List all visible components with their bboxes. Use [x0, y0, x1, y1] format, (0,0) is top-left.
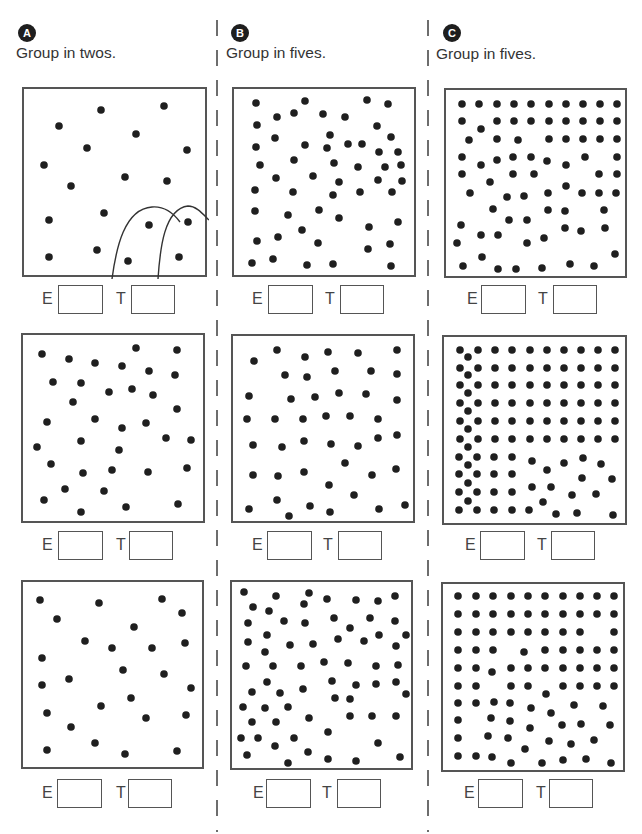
- dot: [248, 718, 256, 726]
- dot: [525, 506, 533, 514]
- dot: [398, 177, 406, 185]
- dot: [314, 239, 322, 247]
- total-answer-box[interactable]: [338, 531, 382, 560]
- dot: [538, 759, 546, 767]
- dot: [509, 153, 517, 161]
- estimate-answer-box[interactable]: [58, 531, 103, 560]
- estimate-answer-box[interactable]: [266, 779, 311, 808]
- total-answer-box[interactable]: [553, 285, 597, 314]
- total-answer-box[interactable]: [129, 531, 173, 560]
- section-b-instruction: Group in fives.: [226, 44, 326, 62]
- estimate-answer-box[interactable]: [481, 285, 526, 314]
- dot: [464, 389, 472, 397]
- dot: [261, 648, 269, 656]
- dot: [593, 682, 601, 690]
- dot: [330, 159, 338, 167]
- dot: [43, 418, 51, 426]
- dot: [454, 664, 462, 672]
- dot: [132, 344, 140, 352]
- dot: [375, 505, 383, 513]
- dot: [249, 471, 257, 479]
- estimate-answer-box[interactable]: [480, 531, 525, 560]
- estimate-answer-box[interactable]: [57, 779, 102, 808]
- dot: [375, 631, 383, 639]
- dot: [573, 509, 581, 517]
- estimate-answer-box[interactable]: [478, 779, 523, 808]
- dot: [454, 610, 462, 618]
- dot: [454, 592, 462, 600]
- dot: [520, 192, 528, 200]
- dot: [290, 734, 298, 742]
- dot: [579, 454, 587, 462]
- dot: [265, 607, 273, 615]
- estimate-answer-box[interactable]: [268, 285, 313, 314]
- dot: [344, 659, 352, 667]
- dot: [560, 364, 568, 372]
- dot: [453, 239, 461, 247]
- dot: [562, 161, 570, 169]
- total-answer-box[interactable]: [549, 779, 593, 808]
- dot: [372, 680, 380, 688]
- dot: [493, 117, 501, 125]
- dot: [81, 637, 89, 645]
- dot: [245, 392, 253, 400]
- dot: [362, 390, 370, 398]
- dot: [508, 488, 516, 496]
- dot: [386, 240, 394, 248]
- dot: [491, 435, 499, 443]
- dot: [484, 732, 492, 740]
- dot: [287, 395, 295, 403]
- dot: [594, 346, 602, 354]
- dot: [175, 253, 183, 261]
- dot: [454, 716, 462, 724]
- dot: [309, 172, 317, 180]
- dot: [577, 381, 585, 389]
- dot: [494, 265, 502, 273]
- dot: [596, 117, 604, 125]
- dot: [162, 434, 170, 442]
- estimate-answer-box[interactable]: [58, 285, 103, 314]
- dot: [544, 206, 552, 214]
- total-answer-box[interactable]: [340, 285, 384, 314]
- dot: [526, 435, 534, 443]
- section-b-badge: B: [231, 24, 249, 42]
- dot: [329, 260, 337, 268]
- total-answer-box[interactable]: [131, 285, 175, 314]
- dot: [454, 646, 462, 654]
- dot: [121, 750, 129, 758]
- dot: [324, 728, 332, 736]
- dot: [570, 701, 578, 709]
- dot: [526, 346, 534, 354]
- dot: [393, 346, 401, 354]
- estimate-label: E: [42, 784, 53, 802]
- dot: [609, 511, 617, 519]
- dot: [38, 350, 46, 358]
- dot: [521, 745, 529, 753]
- dot: [300, 468, 308, 476]
- dot: [458, 170, 466, 178]
- dot: [245, 505, 253, 513]
- dot: [559, 610, 567, 618]
- dot: [490, 453, 498, 461]
- dot: [577, 720, 585, 728]
- dot: [119, 666, 127, 674]
- dot: [454, 699, 462, 707]
- dot: [239, 703, 247, 711]
- estimate-answer-box[interactable]: [267, 531, 312, 560]
- dot: [507, 628, 515, 636]
- dot: [613, 135, 621, 143]
- total-answer-box[interactable]: [128, 779, 172, 808]
- section-c-instruction: Group in fives.: [436, 45, 536, 63]
- dot: [508, 417, 516, 425]
- dot: [547, 483, 555, 491]
- dot: [243, 415, 251, 423]
- total-answer-box[interactable]: [551, 531, 595, 560]
- dot: [528, 483, 536, 491]
- dot: [350, 491, 358, 499]
- dot: [458, 153, 466, 161]
- dot: [576, 682, 584, 690]
- dot: [577, 227, 585, 235]
- total-answer-box[interactable]: [337, 779, 381, 808]
- dot: [478, 253, 486, 261]
- total-label: T: [322, 784, 332, 802]
